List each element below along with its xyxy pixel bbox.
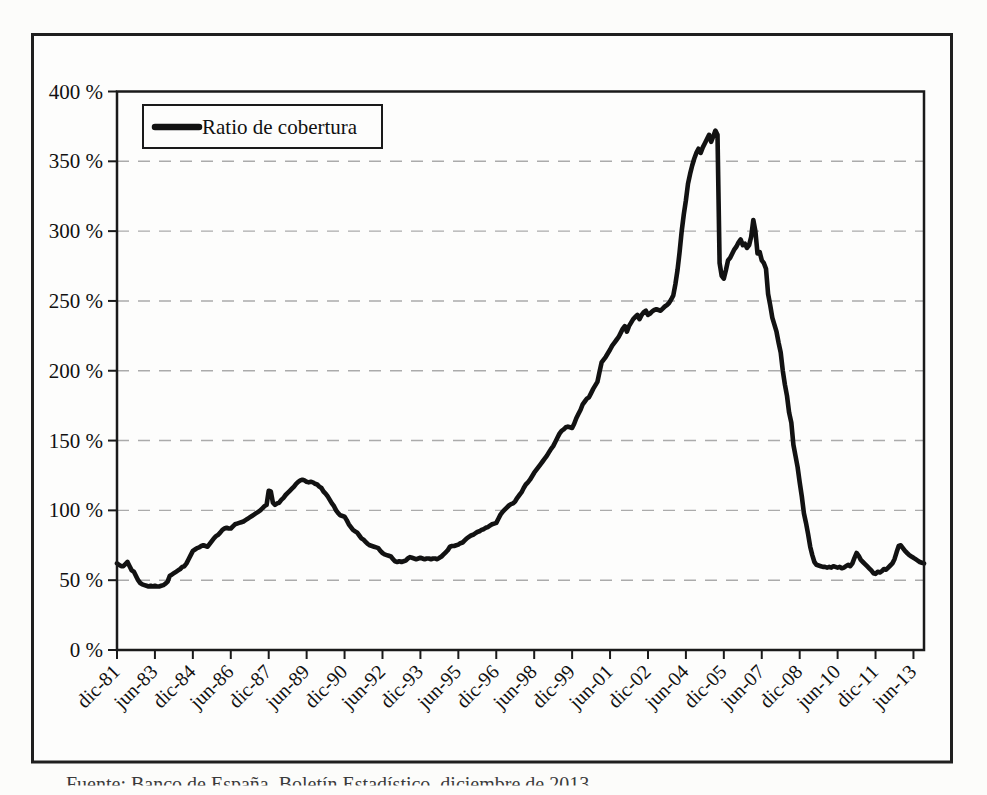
y-axis-label: 250 % [49,289,103,313]
y-axis-label: 200 % [49,359,103,383]
y-axis-label: 400 % [49,80,103,104]
caption-clip-rect [0,786,987,795]
figure: 0 %50 %100 %150 %200 %250 %300 %350 %400… [0,0,987,795]
y-axis-label: 100 % [49,498,103,522]
legend-label: Ratio de cobertura [202,115,358,139]
y-axis-label: 0 % [70,638,103,662]
y-axis-label: 50 % [59,568,103,592]
y-axis-label: 150 % [49,429,103,453]
y-axis-label: 350 % [49,149,103,173]
y-axis-label: 300 % [49,219,103,243]
coverage-ratio-chart: 0 %50 %100 %150 %200 %250 %300 %350 %400… [0,0,987,795]
legend: Ratio de cobertura [143,105,382,148]
